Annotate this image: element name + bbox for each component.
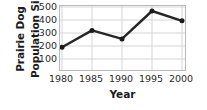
data-point-marker xyxy=(150,9,155,14)
x-tick-label: 1990 xyxy=(104,73,138,85)
y-tick-label: 400 xyxy=(31,15,57,25)
y-tick-label: 500 xyxy=(31,2,57,12)
data-point-marker xyxy=(120,36,125,41)
plot-area xyxy=(59,5,186,71)
x-axis-title: Year xyxy=(59,88,186,101)
y-tick-label: 300 xyxy=(31,28,57,38)
x-tick-label: 2000 xyxy=(164,73,198,85)
y-tick-label: 200 xyxy=(31,41,57,51)
x-tick-label: 1995 xyxy=(134,73,168,85)
data-point-marker xyxy=(90,28,95,33)
prairie-dog-population-line-chart: Prairie Dog Population Size 500 400 300 … xyxy=(0,0,207,110)
data-point-marker xyxy=(180,18,185,23)
x-tick-label: 1985 xyxy=(74,73,108,85)
x-axis-tick-labels: 1980 1985 1990 1995 2000 xyxy=(40,73,207,87)
y-axis-tick-labels: 500 400 300 200 100 xyxy=(29,0,57,78)
x-tick-label: 1980 xyxy=(44,73,78,85)
chart-canvas xyxy=(60,6,185,70)
y-tick-label: 100 xyxy=(31,54,57,64)
